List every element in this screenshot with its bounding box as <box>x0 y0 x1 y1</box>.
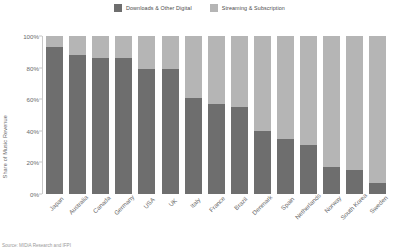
plot-area: 0%20%40%60%80%100% JapanAustraliaCanadaG… <box>46 36 393 194</box>
y-axis-tick-mark <box>39 36 42 37</box>
x-axis-tick-label: Italy <box>189 196 202 209</box>
bar-netherlands[interactable]: Netherlands <box>300 36 317 194</box>
bar-japan[interactable]: Japan <box>46 36 63 194</box>
bar-segment-streaming[interactable] <box>254 36 271 131</box>
bar-segment-streaming[interactable] <box>115 36 132 58</box>
y-axis-tick-mark <box>39 99 42 100</box>
x-axis-tick-label: Spain <box>279 195 295 211</box>
y-axis-tick-label: 100% <box>23 33 39 40</box>
bar-segment-downloads[interactable] <box>162 69 179 194</box>
legend-label-streaming: Streaming & Subscription <box>222 5 285 11</box>
x-axis-tick-label: South Korea <box>339 192 368 221</box>
bar-segment-downloads[interactable] <box>46 47 63 194</box>
bar-segment-streaming[interactable] <box>346 36 363 170</box>
source-note: Source: MIDiA Research and IFPI <box>2 243 71 248</box>
bar-brazil[interactable]: Brazil <box>231 36 248 194</box>
chart-legend: Downloads & Other Digital Streaming & Su… <box>0 4 399 12</box>
x-axis-tick-label: Brazil <box>233 195 249 211</box>
bar-segment-streaming[interactable] <box>208 36 225 104</box>
bar-segment-streaming[interactable] <box>300 36 317 145</box>
legend-item-streaming: Streaming & Subscription <box>210 4 285 12</box>
legend-swatch-downloads <box>114 4 122 12</box>
bar-australia[interactable]: Australia <box>69 36 86 194</box>
y-axis-line <box>42 36 43 194</box>
bar-denmark[interactable]: Denmark <box>254 36 271 194</box>
legend-label-downloads: Downloads & Other Digital <box>126 5 192 11</box>
y-axis-tick-mark <box>39 194 42 195</box>
bar-segment-streaming[interactable] <box>46 36 63 47</box>
x-axis-tick-label: Netherlands <box>293 192 322 221</box>
bar-segment-downloads[interactable] <box>92 58 109 194</box>
bar-segment-downloads[interactable] <box>115 58 132 194</box>
bar-france[interactable]: France <box>208 36 225 194</box>
bar-germany[interactable]: Germany <box>115 36 132 194</box>
y-axis-tick-label: 60% <box>27 96 39 103</box>
x-axis-tick-label: Sweden <box>368 194 389 215</box>
bar-segment-downloads[interactable] <box>277 139 294 194</box>
bar-segment-downloads[interactable] <box>185 98 202 194</box>
bar-segment-downloads[interactable] <box>231 107 248 194</box>
x-axis-tick-label: Japan <box>47 195 64 212</box>
bar-segment-downloads[interactable] <box>369 183 386 194</box>
y-axis-tick-label: 20% <box>27 159 39 166</box>
bar-segment-streaming[interactable] <box>185 36 202 98</box>
y-axis-title: Share of Music Revenue <box>2 115 8 178</box>
bar-italy[interactable]: Italy <box>185 36 202 194</box>
x-axis-tick-label: Norway <box>322 194 342 214</box>
bar-south-korea[interactable]: South Korea <box>346 36 363 194</box>
bar-segment-streaming[interactable] <box>69 36 86 55</box>
x-axis-tick-label: Australia <box>67 194 89 216</box>
bar-segment-downloads[interactable] <box>138 69 155 194</box>
y-axis-tick-mark <box>39 162 42 163</box>
y-axis-tick-label: 0% <box>30 191 39 198</box>
chart-container: Downloads & Other Digital Streaming & Su… <box>0 0 399 252</box>
bar-segment-downloads[interactable] <box>69 55 86 194</box>
bar-segment-downloads[interactable] <box>300 145 317 194</box>
bar-segment-streaming[interactable] <box>138 36 155 69</box>
y-axis-tick-mark <box>39 67 42 68</box>
bar-usa[interactable]: USA <box>138 36 155 194</box>
bar-segment-downloads[interactable] <box>208 104 225 194</box>
legend-swatch-streaming <box>210 4 218 12</box>
bar-group: JapanAustraliaCanadaGermanyUSAUKItalyFra… <box>46 36 393 194</box>
bar-segment-downloads[interactable] <box>254 131 271 194</box>
legend-item-downloads: Downloads & Other Digital <box>114 4 192 12</box>
y-axis-tick-label: 80% <box>27 64 39 71</box>
bar-segment-downloads[interactable] <box>323 167 340 194</box>
x-axis-tick-label: Canada <box>91 194 111 214</box>
x-axis-tick-label: UK <box>167 197 178 208</box>
bar-segment-streaming[interactable] <box>92 36 109 58</box>
x-axis-tick-label: Denmark <box>251 193 274 216</box>
x-axis-tick-label: France <box>208 195 227 214</box>
bar-uk[interactable]: UK <box>162 36 179 194</box>
bar-segment-streaming[interactable] <box>162 36 179 69</box>
bar-norway[interactable]: Norway <box>323 36 340 194</box>
bar-sweden[interactable]: Sweden <box>369 36 386 194</box>
bar-spain[interactable]: Spain <box>277 36 294 194</box>
y-axis-tick-mark <box>39 130 42 131</box>
x-axis-tick-label: Germany <box>112 193 135 216</box>
bar-canada[interactable]: Canada <box>92 36 109 194</box>
bar-segment-streaming[interactable] <box>323 36 340 167</box>
y-axis-tick-label: 40% <box>27 127 39 134</box>
x-axis-tick-label: USA <box>142 196 156 210</box>
bar-segment-streaming[interactable] <box>231 36 248 107</box>
bar-segment-downloads[interactable] <box>346 170 363 194</box>
bar-segment-streaming[interactable] <box>369 36 386 183</box>
bar-segment-streaming[interactable] <box>277 36 294 139</box>
